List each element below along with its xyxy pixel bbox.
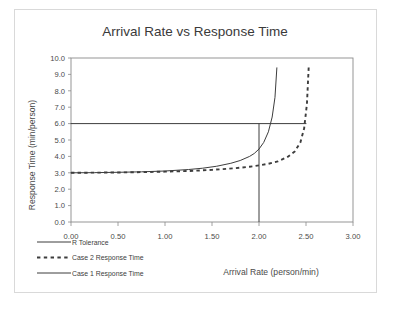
y-axis-title: Response Time (min/person) (27, 100, 37, 210)
y-tick-label: 6.0 (54, 119, 65, 128)
x-axis-title: Arrival Rate (person/min) (223, 267, 319, 277)
y-tick-label: 0.0 (54, 218, 65, 227)
y-tick-label: 10.0 (50, 54, 65, 63)
x-tick-label: 2.50 (299, 232, 314, 241)
x-tick-label: 3.00 (346, 232, 361, 241)
legend-label: Case 1 Response Time (72, 270, 144, 278)
series-group (71, 65, 309, 222)
plot-area-border (71, 58, 353, 222)
chart-legend: R ToleranceCase 2 Response TimeCase 1 Re… (37, 239, 144, 278)
legend-label: Case 2 Response Time (72, 254, 144, 262)
arrival-rate-vs-response-time-chart: Arrival Rate vs Response Time Response T… (15, 10, 376, 292)
x-tick-label: 1.00 (158, 232, 173, 241)
y-tick-label: 9.0 (54, 70, 65, 79)
chart-title: Arrival Rate vs Response Time (102, 24, 287, 39)
series-line (71, 68, 277, 173)
axis-tick-marks (68, 58, 353, 226)
y-tick-label: 7.0 (54, 103, 65, 112)
y-tick-label: 4.0 (54, 152, 65, 161)
y-axis-tick-labels: 0.01.02.03.04.05.06.07.08.09.010.0 (50, 54, 65, 227)
x-tick-label: 2.00 (252, 232, 267, 241)
series-line (71, 65, 309, 173)
y-tick-label: 2.0 (54, 185, 65, 194)
y-tick-label: 8.0 (54, 87, 65, 96)
y-tick-label: 1.0 (54, 201, 65, 210)
chart-container: Arrival Rate vs Response Time Response T… (14, 9, 377, 293)
y-tick-label: 5.0 (54, 136, 65, 145)
y-tick-label: 3.0 (54, 169, 65, 178)
legend-label: R Tolerance (72, 239, 109, 246)
x-tick-label: 0.50 (111, 232, 126, 241)
x-tick-label: 1.50 (205, 232, 220, 241)
